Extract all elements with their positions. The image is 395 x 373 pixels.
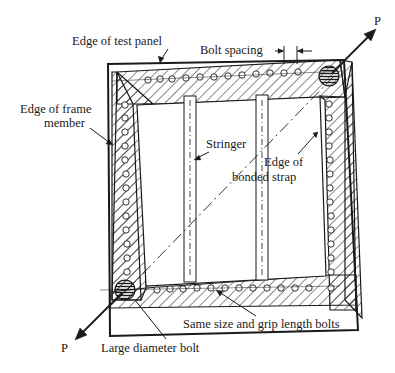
load-arrow-top xyxy=(332,29,376,73)
leader-edge-frame xyxy=(90,128,113,145)
label-large-bolt: Large diameter bolt xyxy=(101,341,200,355)
label-bolt-spacing: Bolt spacing xyxy=(200,43,264,57)
label-same-size-bolts: Same size and grip length bolts xyxy=(183,317,340,331)
label-edge-frame-line1: Edge of frame xyxy=(20,102,92,116)
stringer-left xyxy=(184,96,196,282)
shear-panel-diagram: P P Edge of test panel Bolt spacing Edge… xyxy=(0,0,395,373)
label-edge-frame-line2: member xyxy=(44,116,86,130)
label-bonded-strap-line1: Edge of xyxy=(264,155,304,169)
load-label-bottom: P xyxy=(61,341,68,355)
stringer-right xyxy=(256,95,268,280)
label-edge-test-panel: Edge of test panel xyxy=(72,34,162,48)
panel-web xyxy=(137,97,326,286)
load-arrow-bottom xyxy=(75,293,122,340)
label-bonded-strap-line2: bonded strap xyxy=(232,170,296,184)
label-stringer: Stringer xyxy=(206,137,247,151)
load-label-top: P xyxy=(374,14,381,28)
leader-edge-test-panel xyxy=(158,49,168,63)
